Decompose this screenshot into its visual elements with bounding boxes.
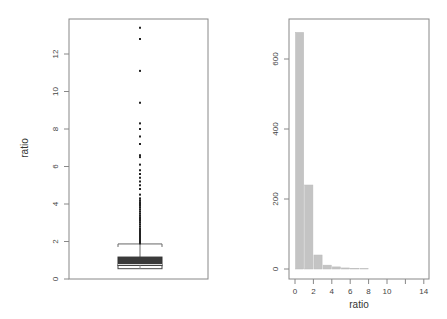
x-tick-label: 6	[348, 287, 353, 296]
y-tick-label: 0	[51, 276, 60, 281]
outlier-point	[139, 216, 141, 218]
outlier-point	[139, 224, 141, 226]
y-tick-label: 8	[51, 126, 60, 131]
histogram-bar	[351, 268, 359, 269]
outlier-point	[139, 143, 141, 145]
outlier-point	[139, 205, 141, 207]
x-tick-label: 2	[311, 287, 316, 296]
boxplot	[118, 27, 162, 269]
histogram-bar	[296, 32, 304, 269]
outlier-point	[139, 27, 141, 29]
y-tick-label: 0	[271, 266, 280, 271]
y-tick-label: 200	[271, 192, 280, 206]
outlier-point	[139, 214, 141, 216]
outlier-point	[139, 169, 141, 171]
outlier-point	[139, 102, 141, 104]
outlier-point	[139, 38, 141, 40]
boxplot-y-label: ratio	[19, 138, 30, 158]
outlier-point	[139, 194, 141, 196]
outlier-point	[139, 201, 141, 203]
outlier-point	[139, 220, 141, 222]
outlier-point	[139, 199, 141, 201]
outlier-point	[139, 164, 141, 166]
outlier-point	[139, 197, 141, 199]
outlier-point	[139, 207, 141, 209]
outlier-point	[139, 226, 141, 228]
x-tick-label: 14	[419, 287, 428, 296]
outlier-point	[139, 218, 141, 220]
x-tick-label: 10	[383, 287, 392, 296]
outlier-point	[139, 136, 141, 138]
histogram-x-axis: 024681014	[293, 279, 429, 296]
y-tick-label: 600	[271, 52, 280, 66]
histogram-bar	[323, 265, 331, 269]
histogram-y-axis: 0200400600	[271, 52, 289, 271]
outlier-point	[139, 209, 141, 211]
histogram-x-label: ratio	[349, 299, 369, 310]
x-tick-label: 0	[293, 287, 298, 296]
histogram-bars	[296, 32, 369, 269]
outlier-point	[139, 211, 141, 213]
x-tick-label: 8	[366, 287, 371, 296]
outlier-point	[139, 154, 141, 156]
y-tick-label: 400	[271, 122, 280, 136]
y-tick-label: 12	[51, 49, 60, 58]
x-tick-label: 4	[330, 287, 335, 296]
outlier-point	[139, 173, 141, 175]
outlier-point	[139, 188, 141, 190]
outlier-point	[139, 122, 141, 124]
outlier-point	[139, 181, 141, 183]
outlier-point	[139, 177, 141, 179]
outlier-point	[139, 156, 141, 158]
y-tick-label: 10	[51, 87, 60, 96]
outlier-dense-band	[139, 228, 141, 243]
histogram-panel: 0200400600 024681014 ratio	[271, 19, 429, 310]
y-tick-label: 2	[51, 239, 60, 244]
histogram-bar	[305, 185, 313, 269]
outlier-point	[139, 184, 141, 186]
histogram-bar	[342, 268, 350, 269]
outlier-point	[139, 70, 141, 72]
histogram-bar	[314, 255, 322, 269]
boxplot-y-axis: 024681012	[51, 49, 69, 281]
outlier-point	[139, 203, 141, 205]
boxplot-frame	[69, 19, 208, 279]
chart-canvas: 024681012 ratio 0200400600 024681014 rat…	[0, 0, 447, 319]
histogram-bar	[332, 267, 340, 269]
outlier-point	[139, 222, 141, 224]
outlier-point	[139, 128, 141, 130]
boxplot-panel: 024681012 ratio	[19, 19, 208, 281]
y-tick-label: 4	[51, 201, 60, 206]
outlier-point	[139, 212, 141, 214]
y-tick-label: 6	[51, 164, 60, 169]
